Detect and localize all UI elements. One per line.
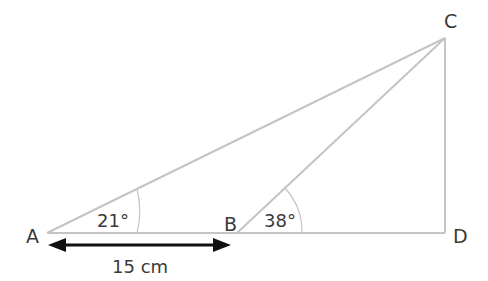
angle-label-a: 21° (97, 210, 129, 231)
vertex-label-b: B (224, 213, 237, 235)
vertex-label-c: C (444, 10, 457, 32)
angle-label-b: 38° (264, 210, 296, 231)
segment-bc (237, 38, 445, 233)
segment-ac (47, 38, 445, 233)
angle-arc-a (137, 189, 140, 233)
measurement-label: 15 cm (112, 256, 168, 277)
vertex-label-a: A (26, 225, 39, 247)
triangle-diagram: A B C D 21° 38° 15 cm (0, 0, 488, 281)
measurement-arrow (48, 238, 231, 252)
vertex-label-d: D (453, 225, 468, 247)
